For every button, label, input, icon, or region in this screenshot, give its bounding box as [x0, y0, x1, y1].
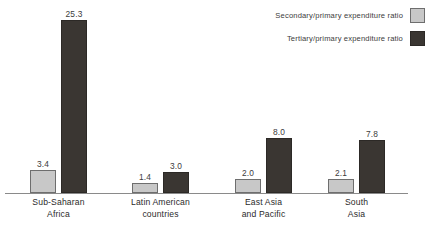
bar-value-label: 1.4: [139, 173, 151, 181]
category-label-south-asia: South Asia: [305, 197, 408, 220]
bar-item-secondary-south-asia: 2.1: [328, 169, 354, 193]
bar-value-label: 3.0: [170, 162, 182, 170]
category-label-line: Sub-Saharan: [5, 197, 112, 209]
bar-item-tertiary-south-asia: 7.8: [359, 130, 385, 193]
x-axis-category-labels: Sub-Saharan Africa Latin American countr…: [5, 197, 408, 231]
category-label-line: South: [305, 197, 408, 209]
category-label-latin-american-countries: Latin American countries: [107, 197, 214, 220]
bar-tertiary: [61, 20, 87, 193]
category-label-line: Latin American: [107, 197, 214, 209]
plot-area: 3.4 25.3 1.4 3.0: [0, 0, 433, 236]
bar-group-east-asia-and-pacific: 2.0 8.0: [210, 0, 317, 193]
category-label-sub-saharan-africa: Sub-Saharan Africa: [5, 197, 112, 220]
bar-secondary: [30, 170, 56, 193]
bar-groups: 3.4 25.3 1.4 3.0: [5, 0, 408, 194]
bar-secondary: [328, 179, 354, 193]
category-label-east-asia-and-pacific: East Asia and Pacific: [210, 197, 317, 220]
bar-tertiary: [266, 138, 292, 193]
bar-value-label: 3.4: [37, 160, 49, 168]
bar-secondary: [235, 179, 261, 193]
bar-value-label: 25.3: [65, 10, 82, 18]
bar-chart: Secondary/primary expenditure ratio Tert…: [0, 0, 433, 236]
category-label-line: East Asia: [210, 197, 317, 209]
bar-value-label: 8.0: [273, 128, 285, 136]
bar-group-south-asia: 2.1 7.8: [305, 0, 408, 193]
category-label-line: and Pacific: [210, 209, 317, 221]
bar-item-secondary-sub-saharan-africa: 3.4: [30, 160, 56, 193]
bar-item-tertiary-latin-american-countries: 3.0: [163, 162, 189, 193]
bar-tertiary: [359, 140, 385, 193]
x-axis-line: [5, 193, 408, 194]
bar-group-sub-saharan-africa: 3.4 25.3: [5, 0, 112, 193]
bar-value-label: 7.8: [366, 130, 378, 138]
bar-item-secondary-east-asia-and-pacific: 2.0: [235, 169, 261, 193]
bar-item-tertiary-east-asia-and-pacific: 8.0: [266, 128, 292, 193]
bar-value-label: 2.1: [335, 169, 347, 177]
bar-value-label: 2.0: [242, 169, 254, 177]
category-label-line: Africa: [5, 209, 112, 221]
bar-tertiary: [163, 172, 189, 193]
bar-secondary: [132, 183, 158, 193]
bar-item-secondary-latin-american-countries: 1.4: [132, 173, 158, 193]
category-label-line: Asia: [305, 209, 408, 221]
category-label-line: countries: [107, 209, 214, 221]
bar-item-tertiary-sub-saharan-africa: 25.3: [61, 10, 87, 193]
bar-group-latin-american-countries: 1.4 3.0: [107, 0, 214, 193]
